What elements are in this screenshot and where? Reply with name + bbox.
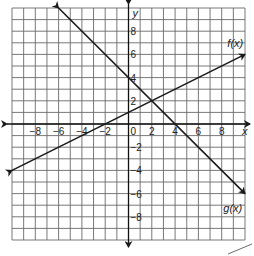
axes — [7, 4, 250, 247]
y-tick-label: 6 — [131, 49, 137, 60]
x-tick-label: −6 — [53, 126, 65, 137]
page-edge-stroke — [228, 244, 252, 254]
tick-labels: −8 −6 −4 −2 2 4 6 8 8 6 4 2 −2 −4 −6 −8 … — [30, 7, 248, 223]
y-tick-label: −8 — [131, 212, 143, 223]
x-tick-label: −8 — [30, 126, 42, 137]
x-tick-label: 4 — [172, 126, 178, 137]
x-tick-label: 6 — [196, 126, 202, 137]
x-axis-label: x — [241, 125, 248, 137]
x-tick-label: 8 — [219, 126, 225, 137]
f-function-label: f(x) — [227, 37, 243, 49]
y-tick-label: −4 — [131, 165, 143, 176]
y-tick-label: −2 — [131, 142, 143, 153]
coordinate-graph: −8 −6 −4 −2 2 4 6 8 8 6 4 2 −2 −4 −6 −8 … — [0, 0, 254, 256]
y-tick-label: 2 — [131, 96, 137, 107]
y-axis-label: y — [132, 7, 140, 19]
g-function-label: g(x) — [223, 202, 242, 214]
origin-label: 0 — [131, 126, 137, 137]
x-tick-label: 2 — [149, 126, 155, 137]
x-tick-label: −2 — [99, 126, 111, 137]
y-tick-label: 8 — [131, 26, 137, 37]
y-tick-label: −6 — [131, 189, 143, 200]
